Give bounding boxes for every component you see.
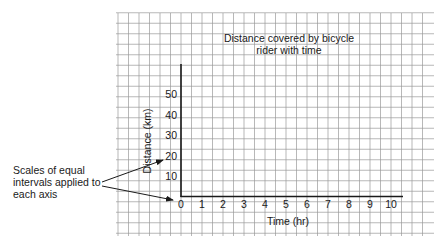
annotation-line-1: Scales of equal (13, 164, 85, 176)
annotation-arrow-to-y-axis (102, 160, 163, 182)
x-axis-label: Time (hr) (267, 215, 309, 227)
x-tick-label: 7 (325, 198, 331, 210)
chart-canvas: 012345678910 1020304050 Distance covered… (0, 0, 445, 243)
x-tick-label: 9 (367, 198, 373, 210)
axes (181, 64, 404, 197)
x-tick-label: 3 (241, 198, 247, 210)
x-tick-label: 5 (283, 198, 289, 210)
x-tick-label: 10 (385, 198, 397, 210)
annotation-line-2: intervals applied to (13, 176, 101, 188)
y-tick-labels: 1020304050 (165, 88, 177, 182)
x-tick-label: 8 (346, 198, 352, 210)
annotation-line-3: each axis (13, 188, 57, 200)
y-tick-label: 30 (165, 129, 177, 141)
x-tick-label: 6 (304, 198, 310, 210)
y-tick-label: 40 (165, 109, 177, 121)
y-tick-label: 10 (165, 170, 177, 182)
x-tick-label: 0 (178, 198, 184, 210)
chart-title-line-2: rider with time (256, 44, 322, 56)
chart-title-line-1: Distance covered by bicycle (224, 32, 354, 44)
y-axis-label: Distance (km) (141, 109, 153, 174)
annotation-arrow-to-x-axis (102, 186, 173, 200)
x-tick-label: 1 (199, 198, 205, 210)
y-tick-label: 20 (165, 150, 177, 162)
x-tick-labels: 012345678910 (178, 198, 397, 210)
x-tick-label: 4 (262, 198, 268, 210)
x-tick-label: 2 (220, 198, 226, 210)
y-tick-label: 50 (165, 88, 177, 100)
